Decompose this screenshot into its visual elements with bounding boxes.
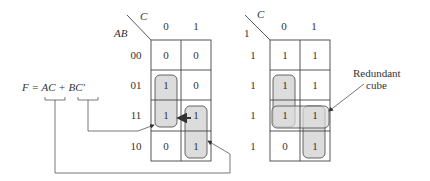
cell: 1 [193,109,199,121]
loop-redundant [272,106,329,128]
cell: 1 [282,109,288,121]
cell: 1 [282,79,288,91]
row-label: 11 [131,109,142,121]
row-label: 1 [250,49,256,61]
cell: 0 [193,79,199,91]
cell: 0 [163,140,169,152]
cell: 1 [163,109,169,121]
col-label: 1 [311,20,317,32]
kmap-diagram: C AB 0 1 00 01 11 10 0 0 1 0 1 1 0 1 F =… [0,0,430,181]
redundant-arrow [329,84,364,111]
col-var-label: C [257,8,265,20]
cell: 1 [193,140,199,152]
row-var-label: 1 [244,27,250,39]
redundant-label-line2: cube [366,79,387,91]
redundant-label: Redundant [353,67,401,79]
row-label: 01 [131,79,142,91]
left-kmap: C AB 0 1 00 01 11 10 0 0 1 0 1 1 0 1 [113,10,211,161]
corner-diagonal [127,15,151,40]
col-var-label: C [140,10,148,22]
row-label: 1 [250,140,256,152]
cell: 1 [312,49,318,61]
row-label: 1 [250,109,256,121]
cell: 1 [163,79,169,91]
row-label: 00 [131,49,143,61]
cell: 1 [312,109,318,121]
cell: 0 [193,49,199,61]
cell: 1 [282,49,288,61]
row-var-label: AB [113,27,128,39]
row-label: 1 [250,79,256,91]
row-label: 10 [131,140,143,152]
col-label: 0 [163,20,169,32]
cell: 1 [312,79,318,91]
col-label: 1 [193,20,199,32]
cell: 0 [163,49,169,61]
col-label: 0 [281,20,287,32]
right-kmap: C 1 0 1 1 1 1 1 1 1 1 1 1 1 0 1 Redundan… [244,8,401,161]
cell: 0 [282,140,288,152]
wire-bc-prime [88,100,154,131]
equation-text: F = AC + BC' [21,81,85,93]
cell: 1 [312,140,318,152]
